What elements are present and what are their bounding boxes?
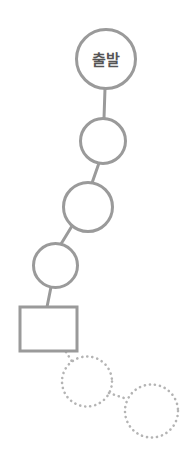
node-3[interactable] xyxy=(64,183,113,232)
node-rect[interactable] xyxy=(20,307,77,351)
node-ghost-2[interactable] xyxy=(125,385,178,438)
diagram-canvas: 출발 xyxy=(0,0,188,466)
node-2[interactable] xyxy=(81,119,126,164)
connector-node-4-to-node-rect xyxy=(47,287,51,307)
connector-node-ghost-1-to-node-ghost-2 xyxy=(109,393,127,399)
node-4[interactable] xyxy=(34,244,78,288)
connector-node-3-to-node-4 xyxy=(61,226,72,244)
node-ghost-1[interactable] xyxy=(62,357,112,407)
connector-node-2-to-node-3 xyxy=(92,163,99,183)
node-start-label: 출발 xyxy=(92,51,120,69)
node-layer: 출발 xyxy=(20,30,178,438)
connector-node-start-to-node-2 xyxy=(104,89,105,119)
flow-path-diagram: 출발 xyxy=(0,0,188,466)
